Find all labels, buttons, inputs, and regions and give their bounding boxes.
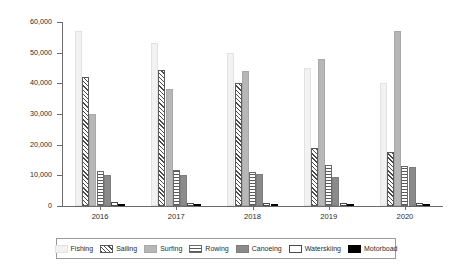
bar-rowing-2017 — [173, 170, 180, 206]
bar-surfing-2016 — [89, 114, 96, 206]
legend-label: Motorboad — [364, 245, 397, 252]
bar-fishing-2020 — [380, 83, 387, 206]
x-tick-mark — [405, 206, 406, 210]
bar-rowing-2020 — [401, 166, 408, 206]
legend-swatch-surfing-icon — [144, 245, 157, 253]
chart-legend: FishingSailingSurfingRowingCanoeingWater… — [56, 238, 396, 259]
bar-surfing-2019 — [318, 59, 325, 206]
bar-waterskiing-2018 — [263, 203, 270, 206]
x-tick-label-2018: 2018 — [223, 212, 283, 221]
legend-label: Waterskiing — [305, 245, 341, 252]
bar-sailing-2017 — [158, 70, 165, 206]
legend-swatch-canoeing-icon — [236, 245, 249, 253]
bar-rowing-2018 — [249, 172, 256, 206]
bar-motorboad-2018 — [271, 204, 278, 206]
legend-label: Canoeing — [252, 245, 282, 252]
bar-rowing-2019 — [325, 165, 332, 206]
x-tick-label-2016: 2016 — [70, 212, 130, 221]
legend-label: Fishing — [71, 245, 94, 252]
legend-swatch-rowing-icon — [189, 245, 202, 253]
bar-waterskiing-2016 — [111, 202, 118, 206]
bar-fishing-2018 — [227, 53, 234, 206]
bar-waterskiing-2017 — [187, 203, 194, 206]
legend-item-waterskiing[interactable]: Waterskiing — [289, 245, 341, 253]
bar-waterskiing-2019 — [340, 203, 347, 206]
y-tick-label: 50,000 — [0, 49, 52, 57]
bar-canoeing-2019 — [332, 177, 339, 206]
bar-canoeing-2016 — [104, 175, 111, 206]
bar-chart: Number licenses 010,00020,00030,00040,00… — [0, 0, 451, 271]
y-tick-label: 30,000 — [0, 110, 52, 118]
legend-swatch-sailing-icon — [100, 245, 113, 253]
legend-item-motorboad[interactable]: Motorboad — [348, 245, 397, 253]
legend-item-canoeing[interactable]: Canoeing — [236, 245, 282, 253]
bar-rowing-2016 — [97, 171, 104, 206]
legend-item-fishing[interactable]: Fishing — [55, 245, 94, 253]
bar-motorboad-2019 — [347, 204, 354, 206]
legend-label: Rowing — [205, 245, 228, 252]
x-tick-mark — [329, 206, 330, 210]
x-tick-label-2019: 2019 — [299, 212, 359, 221]
bar-motorboad-2020 — [423, 204, 430, 206]
x-tick-mark — [176, 206, 177, 210]
legend-swatch-motorboad-icon — [348, 245, 361, 253]
bar-sailing-2018 — [235, 83, 242, 206]
bar-sailing-2019 — [311, 148, 318, 206]
bar-sailing-2020 — [387, 152, 394, 206]
bar-canoeing-2018 — [256, 174, 263, 206]
y-tick-label: 0 — [0, 202, 52, 210]
bar-canoeing-2020 — [409, 167, 416, 206]
bar-motorboad-2016 — [118, 204, 125, 206]
bar-fishing-2017 — [151, 43, 158, 206]
bar-sailing-2016 — [82, 77, 89, 206]
bar-waterskiing-2020 — [416, 203, 423, 206]
bar-fishing-2016 — [75, 31, 82, 206]
x-tick-mark — [253, 206, 254, 210]
legend-item-surfing[interactable]: Surfing — [144, 245, 182, 253]
legend-swatch-fishing-icon — [55, 245, 68, 253]
y-tick-label: 40,000 — [0, 79, 52, 87]
y-tick-label: 60,000 — [0, 18, 52, 26]
bar-canoeing-2017 — [180, 175, 187, 206]
legend-item-sailing[interactable]: Sailing — [100, 245, 137, 253]
x-tick-label-2020: 2020 — [375, 212, 435, 221]
plot-area — [62, 22, 443, 206]
y-tick-label: 10,000 — [0, 171, 52, 179]
bar-surfing-2020 — [394, 31, 401, 206]
bar-fishing-2019 — [304, 68, 311, 206]
bar-motorboad-2017 — [194, 204, 201, 206]
legend-item-rowing[interactable]: Rowing — [189, 245, 228, 253]
legend-label: Sailing — [116, 245, 137, 252]
y-tick-label: 20,000 — [0, 141, 52, 149]
bar-surfing-2018 — [242, 71, 249, 206]
bar-surfing-2017 — [166, 89, 173, 206]
legend-label: Surfing — [160, 245, 182, 252]
x-tick-mark — [100, 206, 101, 210]
legend-swatch-waterskiing-icon — [289, 245, 302, 253]
x-tick-label-2017: 2017 — [146, 212, 206, 221]
